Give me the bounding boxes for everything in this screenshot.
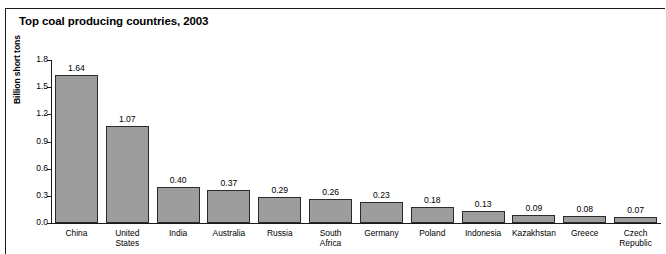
bar-value-label: 0.08 xyxy=(576,204,593,214)
bar-value-label: 0.18 xyxy=(424,195,441,205)
bar[interactable]: 0.13 xyxy=(462,211,505,223)
bar-rect xyxy=(614,217,657,223)
y-tick-label: 0.6 xyxy=(36,163,48,174)
bar-rect xyxy=(309,199,352,223)
bar[interactable]: 0.07 xyxy=(614,217,657,223)
bar-rect xyxy=(360,202,403,223)
x-category-label: Poland xyxy=(419,228,445,238)
x-category-label: South Africa xyxy=(320,228,342,248)
bar[interactable]: 0.29 xyxy=(258,197,301,223)
x-category-label: Czech Republic xyxy=(619,228,652,248)
bar[interactable]: 1.64 xyxy=(55,75,98,224)
y-axis-title: Billion short tons xyxy=(12,35,22,104)
y-tick-label: 0.9 xyxy=(36,136,48,147)
bar-rect xyxy=(512,215,555,223)
bar-value-label: 0.23 xyxy=(373,190,390,200)
y-tick-label: 1.2 xyxy=(36,108,48,119)
x-category-label: Germany xyxy=(364,228,398,238)
bar-rect xyxy=(55,75,98,224)
bar[interactable]: 0.18 xyxy=(411,207,454,223)
bar-rect xyxy=(157,187,200,223)
bar[interactable]: 0.23 xyxy=(360,202,403,223)
x-category-label: Greece xyxy=(571,228,598,238)
bar-rect xyxy=(411,207,454,223)
x-category-label: China xyxy=(65,228,87,238)
bar-value-label: 0.29 xyxy=(271,185,288,195)
y-tick-label: 0.0 xyxy=(36,217,48,228)
bar[interactable]: 0.40 xyxy=(157,187,200,223)
x-category-label: United States xyxy=(115,228,139,248)
chart-title: Top coal producing countries, 2003 xyxy=(19,15,208,27)
bar-value-label: 0.40 xyxy=(170,175,187,185)
bar-rect xyxy=(106,126,149,223)
bar-rect xyxy=(258,197,301,223)
x-axis-line xyxy=(51,223,661,224)
chart-figure-frame: Top coal producing countries, 2003 Billi… xyxy=(5,8,665,254)
bar-value-label: 0.37 xyxy=(221,178,238,188)
bar-value-label: 0.07 xyxy=(627,205,644,215)
x-category-label: Australia xyxy=(213,228,246,238)
y-tick-label: 0.3 xyxy=(36,190,48,201)
bar[interactable]: 1.07 xyxy=(106,126,149,223)
bar-value-label: 0.26 xyxy=(322,187,339,197)
bar-rect xyxy=(563,216,606,223)
bar-value-label: 1.64 xyxy=(68,63,85,73)
x-category-label: India xyxy=(169,228,187,238)
bar-value-label: 1.07 xyxy=(119,114,136,124)
bar[interactable]: 0.26 xyxy=(309,199,352,223)
bar-value-label: 0.09 xyxy=(526,203,543,213)
bar-rect xyxy=(462,211,505,223)
bar-value-label: 0.13 xyxy=(475,199,492,209)
y-tick-label: 1.8 xyxy=(36,54,48,65)
x-category-label: Kazakhstan xyxy=(512,228,556,238)
plot-area: Billion short tons 0.00.30.60.91.21.51.8… xyxy=(51,52,661,224)
bar-rect xyxy=(207,190,250,224)
bar[interactable]: 0.08 xyxy=(563,216,606,223)
x-category-label: Russia xyxy=(267,228,293,238)
bar[interactable]: 0.09 xyxy=(512,215,555,223)
bar[interactable]: 0.37 xyxy=(207,190,250,224)
x-category-label: Indonesia xyxy=(465,228,501,238)
y-tick-label: 1.5 xyxy=(36,81,48,92)
